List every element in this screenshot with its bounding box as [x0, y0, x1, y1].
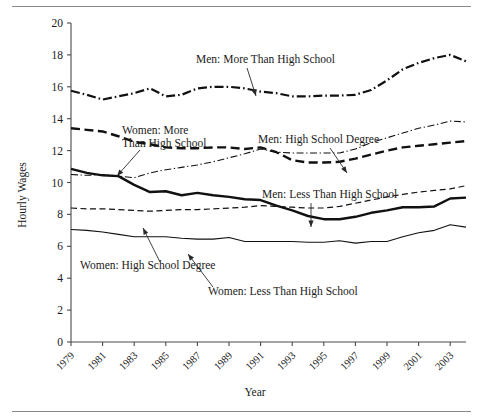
y-tick-label: 18: [52, 49, 64, 61]
figure-bottom-rule: [12, 411, 471, 412]
x-tick-label: 1997: [338, 350, 361, 373]
annotation-label: Men: Less Than High School: [262, 188, 397, 201]
y-axis-tick-labels: 02468101214161820: [52, 17, 64, 348]
series-annotations: Men: More Than High SchoolWomen: MoreTha…: [80, 53, 397, 298]
x-tick-label: 1989: [212, 350, 235, 373]
y-tick-label: 14: [52, 113, 64, 125]
x-tick-label: 1979: [54, 350, 77, 373]
x-tick-label: 2001: [401, 350, 424, 373]
x-tick-label: 1985: [149, 350, 172, 373]
annotation-label: Men: High School Degree: [258, 133, 379, 146]
x-tick-label: 1995: [307, 350, 330, 373]
x-axis-ticks: [71, 342, 450, 346]
series-paths: [71, 55, 466, 243]
y-tick-label: 4: [57, 272, 63, 284]
figure-top-rule: [12, 6, 471, 7]
y-tick-label: 8: [57, 208, 63, 220]
figure-container: 02468101214161820 1979198119831985198719…: [0, 0, 483, 420]
axes: [67, 23, 466, 346]
x-tick-label: 1983: [117, 350, 140, 373]
annotation-arrowhead: [308, 221, 313, 228]
annotation-arrowhead: [341, 166, 347, 173]
y-tick-label: 12: [52, 145, 64, 157]
y-axis-ticks: [67, 23, 71, 342]
series-line: [71, 225, 466, 243]
annotation-label: Women: High School Degree: [80, 259, 215, 272]
y-tick-label: 2: [57, 304, 63, 316]
y-tick-label: 10: [52, 177, 64, 189]
y-tick-label: 20: [52, 17, 64, 29]
x-tick-label: 1993: [275, 350, 298, 373]
y-tick-label: 16: [52, 81, 64, 93]
x-tick-label: 1999: [370, 350, 393, 373]
y-tick-label: 6: [57, 240, 63, 252]
x-tick-label: 1981: [85, 350, 108, 373]
annotation-label: Men: More Than High School: [196, 53, 335, 66]
y-tick-label: 0: [57, 336, 63, 348]
x-tick-label: 1991: [243, 350, 266, 373]
line-chart: 02468101214161820 1979198119831985198719…: [0, 10, 483, 410]
x-axis-tick-labels: 1979198119831985198719891991199319951997…: [54, 350, 456, 373]
annotation-label: Women: MoreThan High School: [122, 124, 206, 150]
x-tick-label: 2003: [433, 350, 456, 373]
y-axis-title: Hourly Wages: [16, 162, 29, 228]
x-tick-label: 1987: [180, 350, 203, 373]
x-axis-title: Year: [244, 386, 265, 398]
annotation-arrowhead: [143, 228, 148, 235]
annotation-label: Women: Less Than High School: [208, 285, 358, 298]
